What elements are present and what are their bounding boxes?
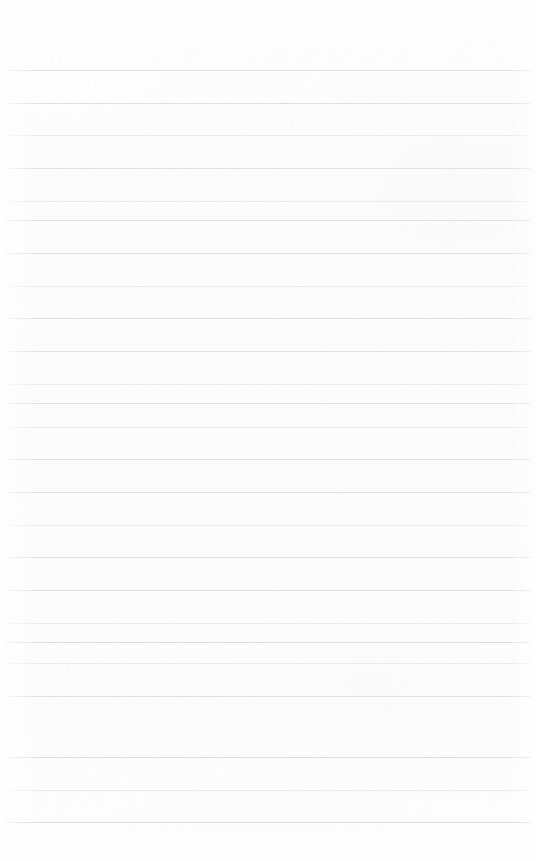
rule-line: [5, 822, 531, 823]
notepad-page: [0, 0, 536, 861]
writing-area[interactable]: [5, 70, 531, 822]
